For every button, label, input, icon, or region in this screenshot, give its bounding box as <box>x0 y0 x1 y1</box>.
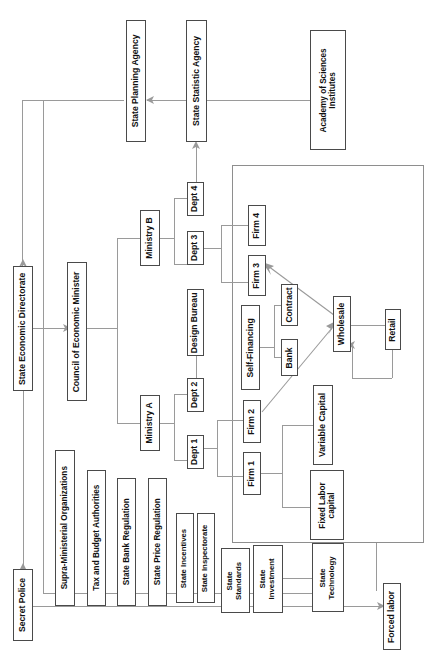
node-label-fixed-labor-capital: Fixed Labor capital <box>318 482 337 528</box>
node-secret-police[interactable]: Secret Police <box>13 569 33 641</box>
node-label-secret-police: Secret Police <box>18 578 28 632</box>
connector-bus-to-firm3 <box>221 282 248 283</box>
connector-ministry-a-stub <box>160 423 174 424</box>
connector-to-dept4 <box>174 198 187 199</box>
arrowhead-into-planning-agency <box>145 94 157 106</box>
node-label-council-of-economic-minister: Council of Economic Minister <box>72 271 82 392</box>
node-state-inspectorate[interactable]: State Inspectorate <box>197 513 215 603</box>
node-state-technology[interactable]: State Technology <box>312 543 344 612</box>
node-label-state-statistic-agency: State Statistic Agency <box>192 36 202 126</box>
node-tax-and-budget-authorities[interactable]: Tax and Budget Authorities <box>87 470 106 606</box>
node-design-bureau[interactable]: Design Bureau <box>187 289 204 356</box>
node-firm-1[interactable]: Firm 1 <box>243 452 261 495</box>
node-dept-4[interactable]: Dept 4 <box>187 182 204 216</box>
node-ministry-b[interactable]: Ministry B <box>140 210 160 266</box>
node-label-state-investment: State Investment <box>259 558 277 599</box>
node-state-bank-regulation[interactable]: State Bank Regulation <box>117 478 136 606</box>
connector-firm12-bus <box>217 420 218 476</box>
node-firm-2[interactable]: Firm 2 <box>243 400 261 443</box>
node-council-of-economic-minister[interactable]: Council of Economic Minister <box>67 262 87 401</box>
node-label-wholesale: Wholesale <box>337 303 347 346</box>
node-dept-3[interactable]: Dept 3 <box>187 231 204 265</box>
connector-ministry-b-split <box>174 198 175 264</box>
node-firm-4[interactable]: Firm 4 <box>248 205 266 246</box>
node-supra-ministerial-organizations[interactable]: Supra-Ministerial Organizations <box>55 450 75 606</box>
node-state-economic-directorate[interactable]: State Economic Directorate <box>13 266 33 391</box>
node-wholesale[interactable]: Wholesale <box>333 296 351 352</box>
connector-to-fixed-labor <box>282 507 310 508</box>
connector-bus-to-firm4 <box>221 225 248 226</box>
node-label-retail: Retail <box>388 318 398 341</box>
connector-bus-to-firm2 <box>217 420 243 421</box>
node-label-self-financing: Self-Financing <box>246 318 256 377</box>
connector-wholesale-to-retail <box>350 325 385 326</box>
node-dept-2[interactable]: Dept 2 <box>187 378 204 412</box>
connector-fixed-labor-to-region <box>376 543 377 591</box>
node-self-financing[interactable]: Self-Financing <box>241 305 260 390</box>
connector-ministry-b-stub <box>160 238 174 239</box>
connector-retail-loop-vertical <box>392 350 393 378</box>
connector-to-dept1 <box>174 460 187 461</box>
node-label-state-price-regulation: State Price Regulation <box>153 499 162 586</box>
node-state-standards[interactable]: State Standards <box>221 548 250 613</box>
node-academy-of-sciences-institutes[interactable]: Academy of Sciences Institutes <box>310 30 346 150</box>
connector-wholesale-to-firm3 <box>260 260 340 322</box>
connector-ministries-bus <box>117 238 118 424</box>
connector-dept2-to-design-bureau <box>196 355 197 379</box>
connector-dept3-to-firmbus <box>203 248 221 249</box>
connector-to-dept2 <box>174 394 187 395</box>
connector-ministry-a-split <box>174 394 175 460</box>
connector-to-variable-capital <box>282 425 313 426</box>
node-label-dept-1: Dept 1 <box>191 439 201 465</box>
node-state-incentives[interactable]: State Incentives <box>176 513 194 603</box>
node-ministry-a[interactable]: Ministry A <box>140 395 160 451</box>
connector-firm1-stub <box>260 473 282 474</box>
connector-to-dept3 <box>174 264 187 265</box>
node-label-dept-4: Dept 4 <box>191 186 201 212</box>
node-label-tax-and-budget-authorities: Tax and Budget Authorities <box>92 485 101 591</box>
node-label-supra-ministerial-organizations: Supra-Ministerial Organizations <box>60 466 69 589</box>
node-label-state-technology: State Technology <box>319 556 337 599</box>
node-label-contract: Contract <box>285 287 295 322</box>
node-label-state-inspectorate: State Inspectorate <box>202 524 211 592</box>
node-fixed-labor-capital[interactable]: Fixed Labor capital <box>310 470 344 540</box>
connector-dept1-to-firmbus <box>203 448 217 449</box>
node-label-design-bureau: Design Bureau <box>191 292 201 353</box>
connector-retail-loop-horizontal <box>352 378 392 379</box>
node-label-firm-4: Firm 4 <box>252 213 262 239</box>
diagram-canvas: State Planning Agency State Statistic Ag… <box>0 0 429 654</box>
node-label-firm-2: Firm 2 <box>247 409 257 435</box>
node-state-price-regulation[interactable]: State Price Regulation <box>148 478 167 606</box>
node-label-bank: Bank <box>285 347 295 368</box>
node-label-state-economic-directorate: State Economic Directorate <box>18 272 28 384</box>
connector-council-trunk <box>87 328 117 329</box>
node-forced-labor[interactable]: Forced labor <box>383 583 401 650</box>
connector-left-rail-vertical-inner <box>43 100 44 593</box>
node-label-state-standards: State Standards <box>227 561 245 599</box>
connector-bus-to-firm1 <box>217 476 243 477</box>
connector-academy-to-statistic <box>196 100 310 101</box>
node-label-ministry-b: Ministry B <box>145 217 155 259</box>
node-variable-capital[interactable]: Variable Capital <box>313 385 333 465</box>
node-bank[interactable]: Bank <box>281 339 298 376</box>
node-retail[interactable]: Retail <box>385 309 401 350</box>
node-state-statistic-agency[interactable]: State Statistic Agency <box>186 20 207 142</box>
node-label-academy-of-sciences-institutes: Academy of Sciences Institutes <box>319 48 338 132</box>
node-label-ministry-a: Ministry A <box>145 402 155 443</box>
node-state-investment[interactable]: State Investment <box>253 545 283 613</box>
connector-bus-to-ministry-b <box>117 238 140 239</box>
node-state-planning-agency[interactable]: State Planning Agency <box>126 20 146 142</box>
node-label-state-planning-agency: State Planning Agency <box>131 35 141 128</box>
node-label-firm-1: Firm 1 <box>247 461 257 487</box>
node-label-dept-3: Dept 3 <box>191 235 201 261</box>
connector-state-technology-rail <box>283 578 312 579</box>
connector-directorate-to-secret-police <box>23 390 24 568</box>
node-firm-3[interactable]: Firm 3 <box>248 255 266 296</box>
node-contract[interactable]: Contract <box>281 284 298 326</box>
node-dept-1[interactable]: Dept 1 <box>187 435 204 469</box>
connector-left-rail-vertical-outer <box>22 100 23 267</box>
node-label-forced-labor: Forced labor <box>387 590 397 642</box>
connector-planning-to-left-rail <box>22 100 124 101</box>
connector-capital-bus <box>282 425 283 507</box>
node-label-state-incentives: State Incentives <box>181 528 190 587</box>
